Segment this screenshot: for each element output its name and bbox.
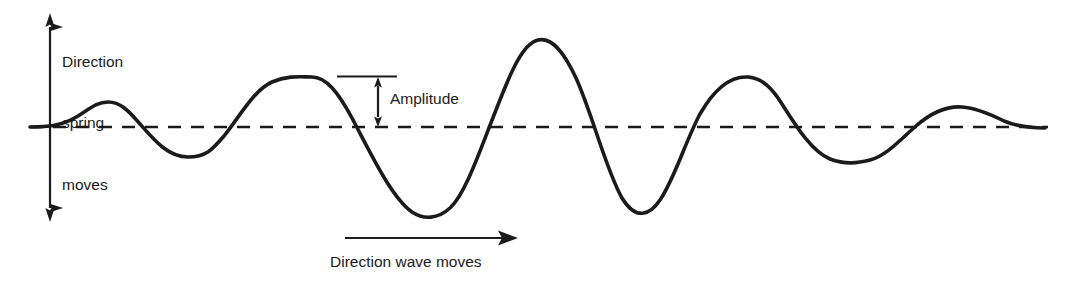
spring-direction-arrow-icon <box>45 13 54 222</box>
wave-diagram-canvas <box>0 0 1074 288</box>
spring-direction-label-line-3: moves <box>62 175 123 195</box>
spring-direction-label-line-2: spring <box>62 113 123 133</box>
wave-direction-label: Direction wave moves <box>330 252 482 272</box>
spring-direction-label-line-1: Direction <box>62 52 123 72</box>
wave-curve <box>30 40 1045 218</box>
amplitude-label: Amplitude <box>390 89 459 109</box>
wave-direction-arrow-icon <box>345 231 518 246</box>
spring-direction-label: Direction spring moves <box>62 11 123 236</box>
wave-diagram: Direction spring moves Amplitude Directi… <box>0 0 1074 288</box>
amplitude-arrow-icon <box>374 77 382 127</box>
